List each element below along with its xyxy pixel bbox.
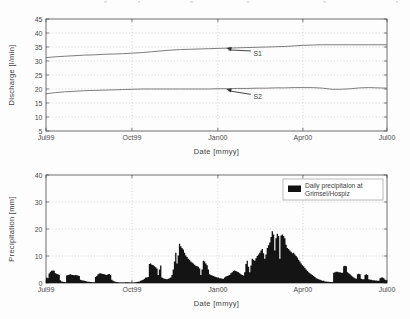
discharge-ticks: 51015202530354045Jul99Oct99Jan00Apr00Jul… [35,16,396,143]
y-tick-label: 20 [35,226,43,233]
y-tick-label: 10 [35,114,43,121]
y-tick-label: 30 [35,58,43,65]
x-tick-label: Oct99 [123,134,142,141]
precipitation-plot: 010203040Jul99Oct99Jan00Apr00Jul00 Daily… [0,163,410,319]
x-tick-label: Oct99 [123,286,142,293]
legend-swatch [288,186,301,193]
precipitation-bars [46,231,387,283]
precipitation-bar-path [46,231,387,283]
y-axis-title: Precipitation [mm] [7,196,16,261]
discharge-plot: 51015202530354045Jul99Oct99Jan00Apr00Jul… [0,8,410,160]
y-tick-label: 40 [35,30,43,37]
y-tick-label: 40 [35,172,43,179]
annotation-label-S1: S1 [253,50,262,57]
precipitation-chart-panel: 010203040Jul99Oct99Jan00Apr00Jul00 Daily… [0,163,410,319]
x-tick-label: Apr00 [294,134,313,142]
x-tick-label: Jul00 [379,134,396,141]
discharge-annotations: S1S2 [226,47,262,100]
annotation-arrowhead-S2 [226,88,232,92]
series-line-S1 [46,45,387,58]
y-tick-label: 45 [35,16,43,23]
y-tick-label: 25 [35,72,43,79]
discharge-gridlines [46,19,387,131]
series-line-S2 [46,88,387,94]
discharge-series-group [46,45,387,94]
precipitation-legend: Daily precipitaion atGrimsel/Hospiz [283,179,383,200]
y-tick-label: 15 [35,100,43,107]
legend-label-line1: Daily precipitaion at [305,182,363,190]
annotation-arrow-S1 [229,50,251,51]
x-axis-title: Date [mmyy] [194,147,239,156]
x-tick-label: Jul99 [38,286,55,293]
y-tick-label: 20 [35,86,43,93]
figure-container: 51015202530354045Jul99Oct99Jan00Apr00Jul… [0,0,410,319]
x-tick-label: Jul99 [38,134,55,141]
y-tick-label: 35 [35,44,43,51]
discharge-chart-panel: 51015202530354045Jul99Oct99Jan00Apr00Jul… [0,8,410,160]
x-tick-label: Jan00 [208,134,227,141]
y-tick-label: 10 [35,253,43,260]
y-tick-label: 30 [35,199,43,206]
annotation-label-S2: S2 [253,93,262,100]
x-tick-label: Jan00 [208,286,227,293]
annotation-arrowhead-S1 [226,47,231,51]
x-tick-label: Jul00 [379,286,396,293]
x-tick-label: Apr00 [294,286,313,294]
x-axis-title: Date [mmyy] [194,299,239,308]
y-axis-title: Discharge [l/min] [7,45,16,106]
legend-label-line2: Grimsel/Hospiz [305,190,350,198]
annotation-arrow-S2 [229,91,251,95]
